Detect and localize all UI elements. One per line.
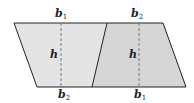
right-top-label: b2 [131, 7, 143, 21]
left-bottom-label: b2 [58, 88, 70, 102]
right-height-label: h [129, 48, 137, 61]
right-bottom-label: b1 [134, 88, 146, 102]
parallelogram-diagram: b1 b2 b2 b1 h h [0, 0, 194, 103]
left-top-label: b1 [55, 7, 67, 21]
diagram-canvas: b1 b2 b2 b1 h h [0, 0, 194, 103]
left-height-label: h [50, 48, 58, 61]
